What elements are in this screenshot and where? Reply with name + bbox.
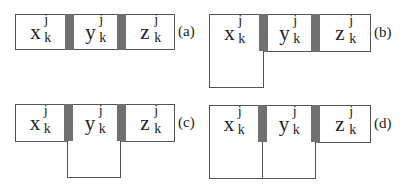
separator-bar: [311, 105, 320, 143]
record-row: xjk yjk zjk: [209, 105, 371, 143]
separator-bar: [259, 14, 268, 52]
var-base: z: [140, 20, 149, 44]
var-subscript: k: [154, 122, 161, 136]
cell-y: yjk: [74, 15, 117, 49]
var-base: z: [335, 21, 344, 45]
var-superscript: j: [44, 13, 48, 27]
var-base: x: [224, 112, 235, 136]
var-base: y: [85, 111, 96, 135]
var-superscript: j: [154, 104, 158, 118]
var-superscript: j: [154, 13, 158, 27]
cell-y: yjk: [267, 106, 311, 142]
panel-label: (d): [374, 115, 392, 132]
var-subscript: k: [44, 31, 51, 45]
var-subscript: k: [154, 31, 161, 45]
var-subscript: k: [349, 32, 356, 46]
separator-bar: [258, 105, 267, 143]
var-subscript: k: [349, 123, 356, 137]
var-superscript: j: [99, 13, 103, 27]
separator-bar: [117, 14, 126, 50]
cell-x: xjk: [210, 106, 258, 142]
cell-x: xjk: [16, 105, 64, 141]
separator-bar: [65, 14, 74, 50]
var-superscript: j: [238, 105, 242, 119]
var-subscript: k: [293, 32, 300, 46]
var-subscript: k: [293, 123, 300, 137]
panel-label: (b): [374, 24, 392, 41]
var-superscript: j: [293, 14, 297, 28]
var-base: y: [85, 20, 96, 44]
var-superscript: j: [349, 14, 353, 28]
var-superscript: j: [349, 105, 353, 119]
var-base: y: [279, 112, 290, 136]
cell-y: yjk: [73, 105, 117, 141]
var-superscript: j: [44, 104, 48, 118]
extension-box-y: [262, 142, 316, 179]
separator-bar: [64, 104, 73, 142]
record-row: xjk yjk zjk: [209, 14, 371, 52]
extension-box-x: [209, 51, 264, 88]
var-base: y: [279, 21, 290, 45]
cell-x: xjk: [210, 15, 259, 51]
record-row: xjk yjk zjk: [15, 14, 175, 50]
var-base: z: [335, 112, 344, 136]
cell-z: zjk: [126, 105, 174, 141]
cell-y: yjk: [268, 15, 311, 51]
cell-z: zjk: [320, 106, 370, 142]
var-base: x: [224, 21, 235, 45]
var-superscript: j: [238, 14, 242, 28]
var-subscript: k: [238, 123, 245, 137]
var-base: x: [30, 111, 41, 135]
var-subscript: k: [238, 32, 245, 46]
var-superscript: j: [293, 105, 297, 119]
var-subscript: k: [99, 31, 106, 45]
cell-z: zjk: [126, 15, 174, 49]
var-base: z: [140, 111, 149, 135]
var-base: x: [30, 20, 41, 44]
separator-bar: [311, 14, 320, 52]
cell-z: zjk: [320, 15, 370, 51]
panel-label: (c): [178, 114, 195, 131]
var-subscript: k: [99, 122, 106, 136]
var-superscript: j: [99, 104, 103, 118]
panel-label: (a): [178, 23, 195, 40]
cell-x: xjk: [16, 15, 65, 49]
extension-box-x: [209, 142, 263, 179]
var-subscript: k: [44, 122, 51, 136]
record-row: xjk yjk zjk: [15, 104, 175, 142]
separator-bar: [117, 104, 126, 142]
extension-box-y: [67, 141, 121, 178]
